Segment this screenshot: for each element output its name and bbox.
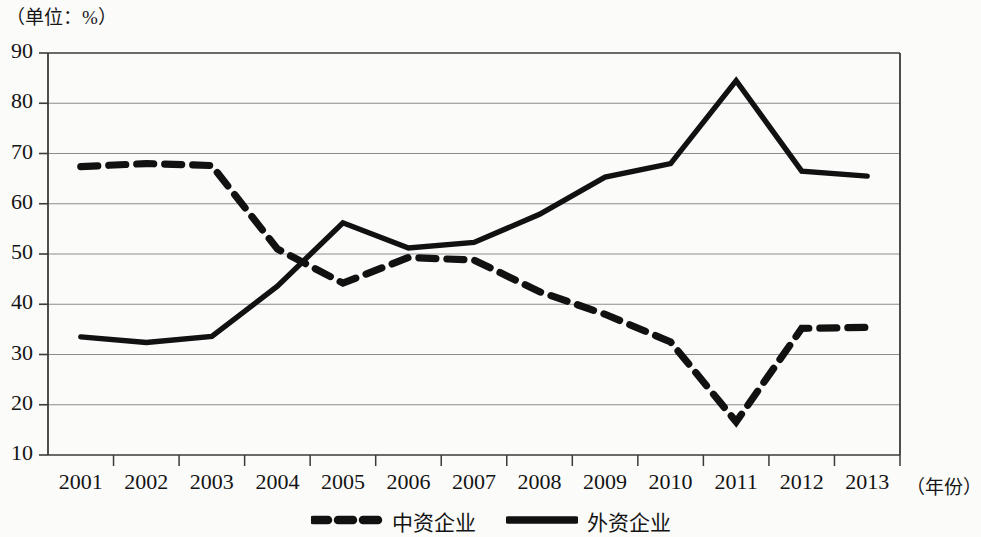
x-axis-unit-label: （年份） [906, 472, 981, 499]
chart-figure: （单位：%） 102030405060708090 20012002200320… [0, 0, 981, 537]
y-tick-label: 20 [0, 390, 33, 416]
y-tick-label: 10 [0, 440, 33, 466]
series-line-zhongzi [81, 164, 867, 422]
y-tick-label: 30 [0, 340, 33, 366]
solid-line-swatch [506, 512, 578, 528]
y-tick-label: 80 [0, 88, 33, 114]
y-tick-label: 60 [0, 189, 33, 215]
series-line-waizi [81, 81, 867, 343]
y-tick-label: 70 [0, 139, 33, 165]
legend-item-1[interactable]: 中资企业 [311, 505, 476, 535]
y-tick-label: 40 [0, 289, 33, 315]
line-chart-plot [0, 0, 981, 537]
legend-item-2[interactable]: 外资企业 [506, 505, 671, 535]
legend-label: 中资企业 [392, 506, 476, 536]
x-tick-label: 2013 [827, 469, 907, 495]
y-tick-label: 90 [0, 38, 33, 64]
dashed-line-swatch [311, 512, 383, 528]
chart-legend: 中资企业外资企业 [0, 503, 981, 537]
y-tick-label: 50 [0, 239, 33, 265]
legend-label: 外资企业 [587, 506, 671, 536]
